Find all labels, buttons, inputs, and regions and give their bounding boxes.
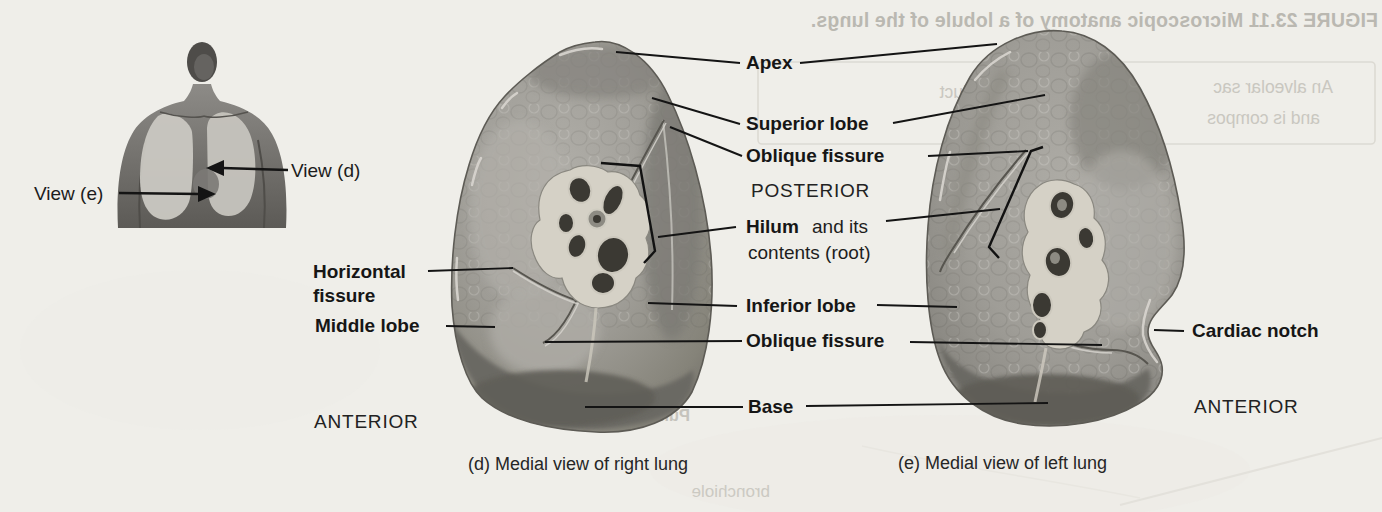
bleed-paragraph-frag3: and is compos	[1207, 108, 1320, 128]
leader-apex-right	[800, 44, 997, 63]
bleed-bronchiole: bronchiole	[692, 482, 770, 501]
label-anterior-right: ANTERIOR	[1194, 396, 1299, 417]
face-highlight	[194, 54, 214, 80]
label-superior-lobe: Superior lobe	[746, 113, 868, 134]
label-oblique-fissure-upper: Oblique fissure	[746, 145, 884, 166]
view-e-label: View (e)	[34, 183, 103, 204]
label-anterior-left: ANTERIOR	[314, 411, 419, 432]
view-e-arrow	[119, 193, 200, 194]
label-horizontal-fissure-line1: Horizontal	[313, 261, 406, 282]
label-apex: Apex	[746, 52, 793, 73]
label-cardiac-notch: Cardiac notch	[1192, 320, 1319, 341]
label-base: Base	[748, 396, 793, 417]
label-posterior: POSTERIOR	[751, 180, 870, 201]
label-hilum-line2: contents (root)	[748, 242, 871, 263]
right-lung-illustration	[440, 28, 720, 444]
bleed-figure-title: FIGURE 23.11 Microscopic anatomy of a lo…	[811, 9, 1378, 31]
caption-view-d: (d) Medial view of right lung	[468, 454, 688, 474]
textbook-figure-page: FIGURE 23.11 Microscopic anatomy of a lo…	[0, 0, 1382, 512]
label-hilum-rest: and its	[812, 216, 868, 237]
leader-middle-lobe	[446, 326, 495, 327]
label-hilum: Hilum	[746, 216, 799, 237]
bleed-paragraph-frag1: An alveolar sac	[1213, 77, 1333, 97]
view-d-label: View (d)	[291, 160, 360, 181]
lung-anatomy-figure: FIGURE 23.11 Microscopic anatomy of a lo…	[0, 0, 1382, 512]
leader-cardiac-notch	[1154, 330, 1184, 331]
label-horizontal-fissure-line2: fissure	[313, 285, 375, 306]
orientation-inset: View (d) View (e)	[34, 42, 360, 228]
label-middle-lobe: Middle lobe	[315, 315, 420, 336]
label-oblique-fissure-lower: Oblique fissure	[746, 330, 884, 351]
caption-view-e: (e) Medial view of left lung	[898, 453, 1107, 473]
leader-oblique-fissure-lower-left	[545, 341, 742, 342]
label-inferior-lobe: Inferior lobe	[746, 295, 856, 316]
